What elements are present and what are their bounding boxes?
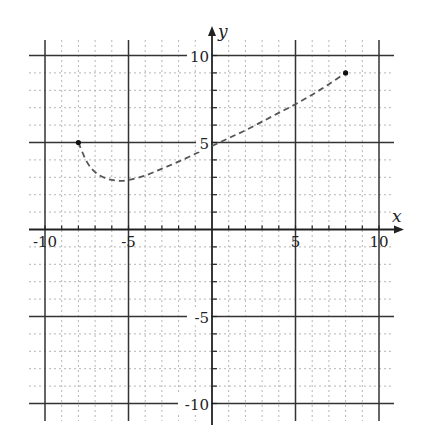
y-tick-label: 5 — [199, 135, 209, 153]
x-tick-label: -5 — [121, 233, 136, 251]
endpoint-dot — [343, 70, 348, 75]
y-tick-label: -10 — [185, 396, 209, 414]
y-axis-label: y — [217, 21, 228, 41]
y-tick-label: 10 — [190, 48, 209, 66]
endpoint-dot — [76, 140, 81, 145]
x-axis-label: x — [392, 206, 402, 226]
x-tick-label: -10 — [33, 233, 57, 251]
coordinate-plane: -10-5510105-5-10 x y — [0, 0, 421, 445]
x-tick-label: 10 — [369, 233, 388, 251]
x-tick-label: 5 — [291, 233, 301, 251]
axes — [29, 26, 404, 425]
y-tick-label: -5 — [194, 309, 209, 327]
